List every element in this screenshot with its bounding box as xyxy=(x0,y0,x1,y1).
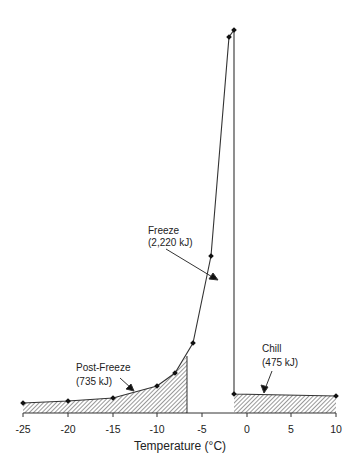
tick-label: -10 xyxy=(149,423,164,435)
tick-label: 5 xyxy=(288,423,294,435)
tick-label: 0 xyxy=(244,423,250,435)
post-freeze-label: Post-Freeze xyxy=(76,362,131,373)
chill-value: (475 kJ) xyxy=(262,357,298,368)
data-markers xyxy=(20,27,339,406)
tick-label: -15 xyxy=(105,423,120,435)
tick-label: -20 xyxy=(60,423,75,435)
chart-canvas: Freeze (2,220 kJ) Post-Freeze (735 kJ) C… xyxy=(0,0,358,472)
freeze-value: (2,220 kJ) xyxy=(148,237,192,248)
x-tick-labels: -25 -20 -15 -10 -5 0 5 10 xyxy=(15,423,342,435)
tick-label: 10 xyxy=(330,423,342,435)
post-freeze-value: (735 kJ) xyxy=(76,376,112,387)
annotation-arrows xyxy=(120,249,272,393)
x-axis-ticks xyxy=(23,413,336,417)
x-axis-title: Temperature (°C) xyxy=(134,439,226,453)
data-line xyxy=(23,30,336,403)
freeze-label: Freeze xyxy=(148,225,180,236)
tick-label: -25 xyxy=(15,423,30,435)
tick-label: -5 xyxy=(197,423,206,435)
chill-area xyxy=(234,394,336,413)
chill-label: Chill xyxy=(262,343,281,354)
